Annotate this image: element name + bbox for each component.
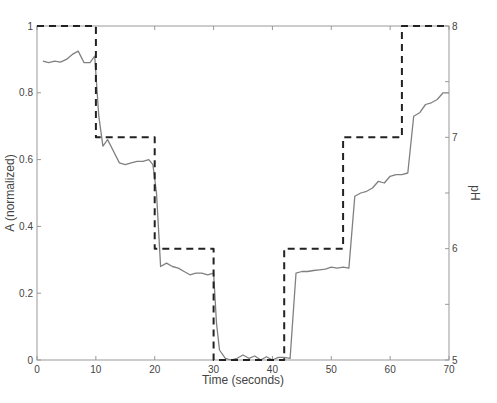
- absorbance-line: [43, 51, 449, 360]
- x-tick-label: 0: [34, 364, 40, 375]
- y2-tick-label: 8: [452, 21, 458, 32]
- y-tick-label: 0.6: [19, 154, 33, 165]
- y2-tick-label: 5: [452, 355, 458, 366]
- y-tick-label: 0.4: [19, 221, 33, 232]
- x-tick-label: 20: [149, 364, 161, 375]
- y-tick-label: 0.2: [19, 288, 33, 299]
- chart: 010203040506070 00.20.40.60.81 5678 Time…: [0, 0, 497, 403]
- x-tick-label: 60: [385, 364, 397, 375]
- x-axis-label: Time (seconds): [202, 373, 284, 387]
- y2-tick-label: 6: [452, 243, 458, 254]
- x-tick-label: 50: [326, 364, 338, 375]
- x-axis-ticks: 010203040506070: [34, 26, 455, 375]
- y-tick-label: 0.8: [19, 87, 33, 98]
- plot-frame: [37, 26, 449, 360]
- y-axis-right-ticks: 5678: [445, 21, 458, 366]
- y-axis-left-label: A (normalized): [3, 154, 17, 231]
- y-axis-left-ticks: 00.20.40.60.81: [19, 21, 41, 366]
- x-tick-label: 70: [443, 364, 455, 375]
- ph-step-line: [37, 26, 449, 360]
- y-tick-label: 0: [27, 355, 33, 366]
- y2-tick-label: 7: [452, 132, 458, 143]
- y-tick-label: 1: [27, 21, 33, 32]
- data-series: [37, 26, 449, 360]
- y-axis-right-label: pH: [468, 185, 482, 200]
- x-tick-label: 10: [90, 364, 102, 375]
